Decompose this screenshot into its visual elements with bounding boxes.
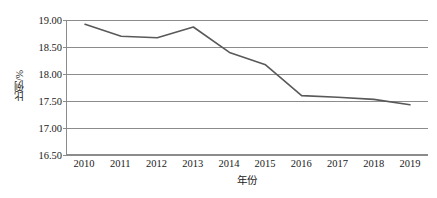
y-axis-tick-label: 17.00 (26, 123, 62, 134)
y-axis-tick-label-group: 19.0018.5018.0017.5017.0016.50 (26, 20, 62, 155)
x-axis-tick-label-group: 2010201120122013201420152016201720182019 (66, 157, 428, 173)
y-axis-tick-label: 18.00 (26, 69, 62, 80)
y-axis-tick-label: 16.50 (26, 150, 62, 161)
series-line-chart (67, 20, 428, 155)
y-axis-tick-label: 19.00 (26, 15, 62, 26)
gridline (67, 155, 428, 156)
y-axis-tick-mark (63, 155, 67, 156)
x-axis-title: 年份 (66, 174, 428, 187)
x-axis-tick-label: 2019 (387, 157, 433, 170)
plot-area (66, 20, 428, 155)
y-axis-tick-label: 17.50 (26, 96, 62, 107)
series-line-bili (85, 24, 410, 104)
line-chart-figure: 比例/% 19.0018.5018.0017.5017.0016.50 2010… (0, 0, 437, 198)
x-axis-baseline (67, 154, 428, 155)
y-axis-tick-label: 18.50 (26, 42, 62, 53)
